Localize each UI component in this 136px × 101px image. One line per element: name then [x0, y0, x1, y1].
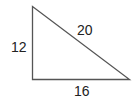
label-vertical-side: 12	[11, 40, 27, 54]
triangle-shape	[33, 7, 130, 80]
label-hypotenuse: 20	[77, 23, 93, 37]
label-horizontal-side: 16	[74, 84, 90, 98]
